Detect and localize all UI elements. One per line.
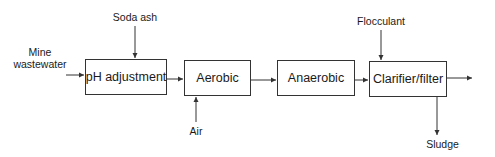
node-label: Aerobic	[196, 71, 238, 85]
node-label: Clarifier/filter	[373, 72, 443, 86]
node-label: pH adjustment	[86, 70, 167, 84]
node-anaerobic: Anaerobic	[277, 60, 355, 96]
node-clarifier-filter: Clarifier/filter	[369, 61, 447, 97]
input-label-soda-ash: Soda ash	[105, 11, 165, 23]
mine-wastewater-line1: Mine	[2, 46, 78, 58]
input-label-flocculant: Flocculant	[346, 15, 416, 27]
input-label-mine-wastewater: Mine wastewater	[2, 46, 78, 70]
mine-wastewater-line2: wastewater	[2, 58, 78, 70]
node-ph-adjustment: pH adjustment	[85, 59, 167, 95]
output-label-sludge: Sludge	[420, 138, 465, 150]
input-label-air: Air	[181, 125, 211, 137]
node-aerobic: Aerobic	[184, 60, 251, 96]
node-label: Anaerobic	[288, 71, 344, 85]
